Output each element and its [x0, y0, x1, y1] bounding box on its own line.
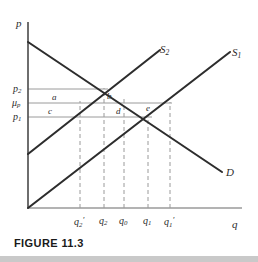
region-label-d: d	[116, 107, 121, 116]
curve-label-d: D	[226, 167, 234, 178]
price-tick-p1: p1	[13, 112, 21, 123]
y-axis-label: p	[16, 18, 22, 29]
quantity-tick-q2: q2	[99, 216, 107, 227]
quantity-tick-q1-prime: q1′	[164, 216, 174, 229]
price-tick-mu-p: μp	[12, 98, 20, 109]
region-label-e: e	[146, 104, 150, 113]
region-label-b: b	[107, 92, 112, 101]
quantity-tick-q0: q0	[119, 216, 127, 227]
figure-caption: FIGURE 11.3	[14, 237, 84, 249]
x-axis-label: q	[232, 219, 238, 230]
curve-label-s1: S1	[232, 47, 241, 59]
price-tick-p2: p2	[13, 84, 21, 95]
supply-demand-plot	[0, 0, 258, 262]
demand-curve	[28, 42, 222, 172]
quantity-tick-q2-prime: q2′	[74, 216, 84, 229]
page-edge-band	[0, 256, 258, 262]
region-label-c: c	[48, 107, 52, 116]
quantity-tick-q1: q1	[143, 216, 151, 227]
region-label-a: a	[52, 93, 57, 102]
supply-curve-s2	[28, 50, 160, 154]
curve-label-s2: S2	[160, 44, 169, 56]
axes	[28, 22, 242, 208]
figure-11-3: p q p2 μp p1 q2′ q2 q0 q1 q1′ S2 S1 D a …	[0, 0, 258, 262]
